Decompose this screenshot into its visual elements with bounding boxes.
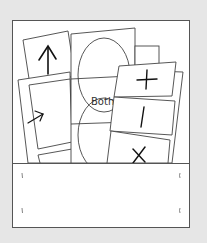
card-plus [114,62,176,97]
folder-pocket-illustration: Both [0,0,207,243]
card-arrow-right [18,72,72,163]
venn-label: Both [91,96,114,107]
folder-pocket [13,164,190,228]
card-minus [110,97,175,135]
